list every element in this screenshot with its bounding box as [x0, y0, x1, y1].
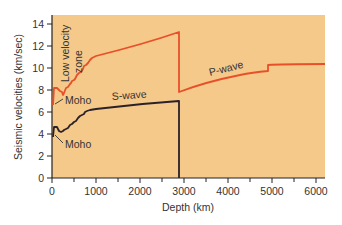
low-velocity-zone-label-2: zone — [72, 50, 84, 73]
seismic-velocity-chart: 0 2 4 6 8 10 12 14 0 1000 2000 3000 4000… — [0, 0, 342, 225]
x-tick-label: 1000 — [84, 185, 108, 197]
y-tick-label: 14 — [32, 18, 44, 30]
plot-area — [52, 15, 325, 178]
x-tick-label: 5000 — [260, 185, 284, 197]
x-tick-label: 3000 — [172, 185, 196, 197]
y-tick-label: 8 — [38, 84, 44, 96]
x-ticks — [52, 178, 316, 183]
y-tick-label: 10 — [32, 62, 44, 74]
x-axis-title: Depth (km) — [162, 201, 214, 213]
moho-p-label: Moho — [65, 94, 91, 106]
y-axis-title: Seismic velocities (km/sec) — [12, 34, 24, 160]
y-tick-label: 4 — [38, 128, 44, 140]
x-tick-label: 4000 — [216, 185, 240, 197]
x-tick-label: 0 — [49, 185, 55, 197]
x-tick-label: 2000 — [128, 185, 152, 197]
y-tick-label: 12 — [32, 40, 44, 52]
moho-s-label: Moho — [65, 138, 91, 150]
y-tick-label: 6 — [38, 106, 44, 118]
y-ticks — [47, 24, 52, 178]
low-velocity-zone-label: Low velocity — [59, 24, 71, 82]
x-tick-labels: 0 1000 2000 3000 4000 5000 6000 — [49, 185, 328, 197]
y-tick-label: 0 — [38, 172, 44, 184]
x-tick-label: 6000 — [304, 185, 328, 197]
y-tick-label: 2 — [38, 150, 44, 162]
s-wave-label: S-wave — [111, 88, 147, 102]
y-tick-labels: 0 2 4 6 8 10 12 14 — [32, 18, 44, 184]
